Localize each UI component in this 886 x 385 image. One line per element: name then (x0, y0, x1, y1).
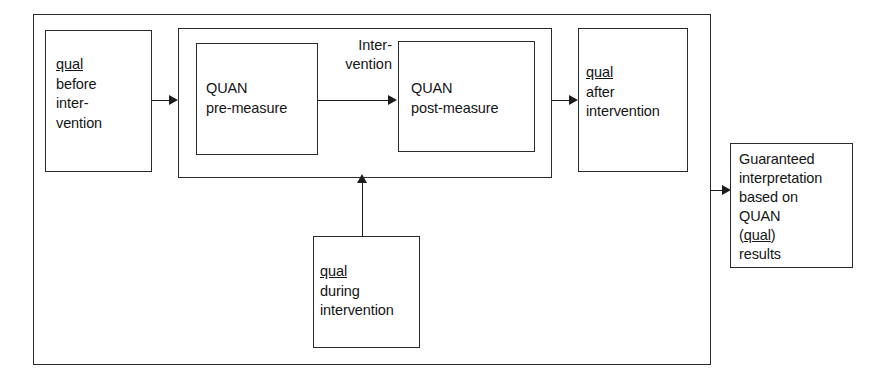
box-qual-during-intervention-label: qual during intervention (320, 262, 394, 321)
quan-pre-line-1: QUAN (206, 80, 248, 96)
qual-before-line-2: before (56, 76, 97, 92)
qual-after-line-2: after (586, 84, 615, 100)
interpretation-line-6: results (739, 246, 781, 262)
edge-label-intervention: Inter- vention (316, 36, 392, 74)
qual-after-line-1: qual (586, 64, 613, 80)
interpretation-line-4: QUAN (739, 208, 781, 224)
arrow-head-pre-to-post (388, 95, 397, 105)
box-qual-after-intervention-label: qual after intervention (586, 63, 660, 122)
interpretation-line-5: (qual) (739, 227, 775, 243)
box-guaranteed-interpretation-label: Guaranteed interpretation based on QUAN … (739, 150, 822, 264)
intervention-line-1: Inter- (358, 37, 392, 53)
arrow-line-qual-during-to-quan-group (362, 182, 363, 236)
quan-post-line-1: QUAN (411, 80, 453, 96)
qual-before-line-1: qual (56, 56, 83, 72)
arrow-line-pre-to-post (318, 100, 389, 101)
qual-before-line-4: vention (56, 115, 102, 131)
qual-during-line-2: during (320, 283, 360, 299)
arrow-head-qual-during-to-quan-group (357, 174, 367, 183)
quan-post-line-2: post-measure (411, 100, 498, 116)
qual-after-line-3: intervention (586, 103, 660, 119)
arrow-head-quan-group-to-qual-after (569, 95, 578, 105)
arrow-line-qual-before-to-quan-group (152, 100, 170, 101)
intervention-line-2: vention (345, 56, 392, 72)
interpretation-line-2: interpretation (739, 170, 822, 186)
qual-during-line-1: qual (320, 263, 347, 279)
box-quan-post-measure-label: QUAN post-measure (411, 79, 498, 118)
box-qual-before-intervention-label: qual before inter- vention (56, 55, 102, 133)
qual-before-line-3: inter- (56, 95, 88, 111)
qual-during-line-3: intervention (320, 302, 394, 318)
interpretation-qual-word: qual (744, 227, 771, 243)
box-quan-pre-measure-label: QUAN pre-measure (206, 79, 287, 118)
interpretation-line-1: Guaranteed (739, 151, 815, 167)
arrow-head-qual-before-to-quan-group (169, 95, 178, 105)
arrow-line-quan-group-to-qual-after (552, 100, 570, 101)
diagram-canvas: qual before inter- vention QUAN pre-meas… (0, 0, 886, 385)
quan-pre-line-2: pre-measure (206, 100, 287, 116)
interpretation-line-3: based on (739, 189, 798, 205)
